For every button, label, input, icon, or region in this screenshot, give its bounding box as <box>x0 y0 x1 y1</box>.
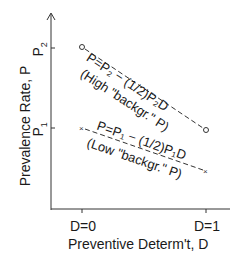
x-tick-label-d1: D=1 <box>194 218 220 234</box>
y-tick-label-p2: P2 <box>30 42 49 56</box>
x-marker-icon: × <box>79 124 84 133</box>
x-tick-label-d0: D=0 <box>70 218 96 234</box>
x-axis-label: Preventive Determ't, D <box>68 236 208 252</box>
circle-marker-icon <box>204 128 209 133</box>
circle-marker-icon <box>80 45 85 50</box>
y-tick-label-p1: P1 <box>30 122 49 136</box>
x-marker-icon: × <box>203 167 208 176</box>
